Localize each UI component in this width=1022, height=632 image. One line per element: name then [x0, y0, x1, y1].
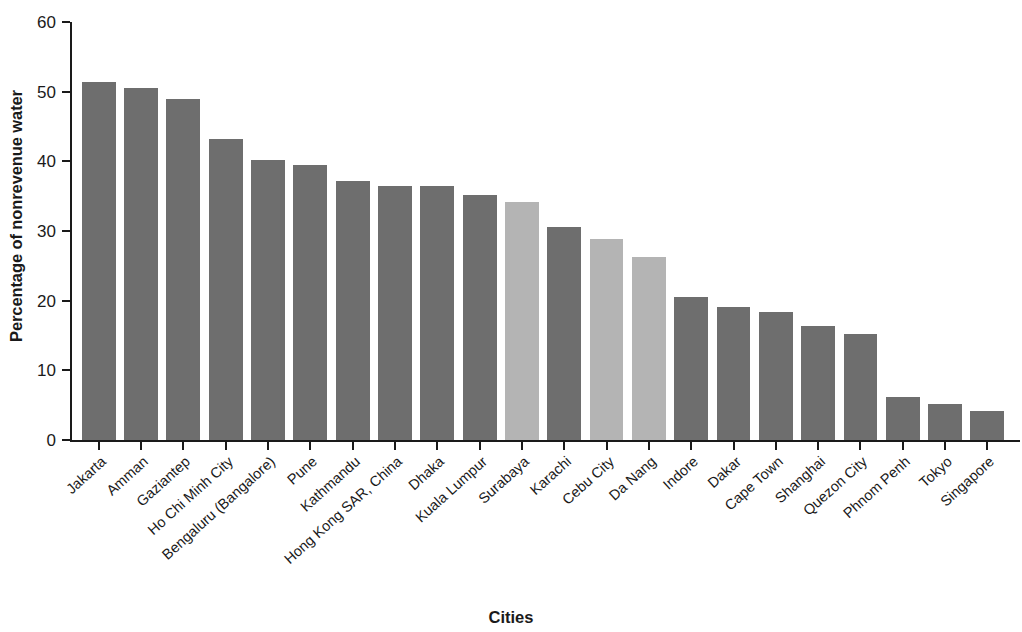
- bar: [632, 257, 666, 440]
- x-axis-tick: [775, 442, 777, 450]
- x-axis-tick: [309, 442, 311, 450]
- y-axis-tick-label: 30: [8, 223, 56, 240]
- bar: [590, 239, 624, 440]
- x-axis-tick: [817, 442, 819, 450]
- x-axis-title: Cities: [0, 608, 1022, 627]
- x-axis-tick: [690, 442, 692, 450]
- bar: [166, 99, 200, 440]
- x-axis-tick: [436, 442, 438, 450]
- bar: [420, 186, 454, 440]
- y-axis-tick: [62, 300, 70, 302]
- y-axis-tick-label: 0: [8, 432, 56, 449]
- y-axis-tick: [62, 91, 70, 93]
- y-axis-tick: [62, 369, 70, 371]
- x-axis-tick: [902, 442, 904, 450]
- bar: [209, 139, 243, 440]
- y-axis-tick-label: 50: [8, 83, 56, 100]
- y-axis-tick: [62, 21, 70, 23]
- x-axis-tick: [225, 442, 227, 450]
- x-axis-tick: [521, 442, 523, 450]
- bar: [251, 160, 285, 440]
- bar: [547, 227, 581, 440]
- bar: [801, 326, 835, 440]
- bar-series: [70, 22, 1020, 440]
- x-axis-tick: [733, 442, 735, 450]
- x-axis-tick: [182, 442, 184, 450]
- bar: [844, 334, 878, 440]
- x-axis-tick: [859, 442, 861, 450]
- x-axis-tick: [140, 442, 142, 450]
- y-axis-tick-label: 20: [8, 292, 56, 309]
- bar: [124, 88, 158, 440]
- x-axis-line: [70, 440, 1020, 442]
- x-axis-tick: [479, 442, 481, 450]
- bar: [759, 312, 793, 440]
- x-axis-tick: [944, 442, 946, 450]
- bar: [463, 195, 497, 440]
- y-axis-tick: [62, 160, 70, 162]
- bar: [886, 397, 920, 440]
- x-axis-tick: [563, 442, 565, 450]
- x-axis-tick: [352, 442, 354, 450]
- bar: [970, 411, 1004, 440]
- x-axis-tick: [394, 442, 396, 450]
- bar: [82, 82, 116, 440]
- bar: [674, 297, 708, 440]
- bar: [378, 186, 412, 440]
- bar: [293, 165, 327, 440]
- x-axis-tick: [648, 442, 650, 450]
- bar: [505, 202, 539, 440]
- y-axis-tick: [62, 439, 70, 441]
- bar: [928, 404, 962, 440]
- bar: [336, 181, 370, 440]
- y-axis-tick-label: 60: [8, 14, 56, 31]
- x-axis-tick: [98, 442, 100, 450]
- y-axis-tick-label: 40: [8, 153, 56, 170]
- x-axis-tick: [986, 442, 988, 450]
- y-axis-tick-label: 10: [8, 362, 56, 379]
- bar-chart-figure: Percentage of nonrevenue water 010203040…: [0, 0, 1022, 632]
- x-axis-tick: [606, 442, 608, 450]
- bar: [717, 307, 751, 440]
- y-axis-tick: [62, 230, 70, 232]
- x-axis-tick: [267, 442, 269, 450]
